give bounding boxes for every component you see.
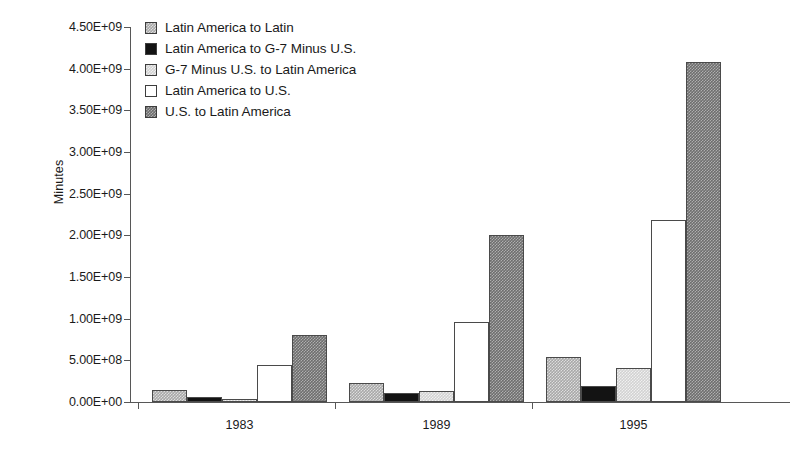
legend-swatch-icon [145, 43, 157, 55]
bar-1983-series-1 [187, 397, 222, 402]
y-axis-tick-label: 4.00E+09 [18, 62, 122, 76]
legend-label: G-7 Minus U.S. to Latin America [165, 62, 356, 77]
x-axis-tick-label: 1989 [423, 418, 451, 432]
y-axis-tick-label: 5.00E+08 [18, 353, 122, 367]
x-axis-line [124, 402, 790, 403]
y-axis-tick-label: 1.50E+09 [18, 270, 122, 284]
y-axis-tick-mark [124, 277, 130, 278]
legend-label: Latin America to Latin [165, 20, 294, 35]
y-axis-tick-mark [124, 152, 130, 153]
legend-label: Latin America to G-7 Minus U.S. [165, 41, 356, 56]
x-axis-tick-label: 1983 [226, 418, 254, 432]
y-axis-tick-mark [124, 110, 130, 111]
y-axis-tick-label: 4.50E+09 [18, 20, 122, 34]
y-axis-tick-mark [124, 27, 130, 28]
bar-1983-series-2 [222, 399, 257, 402]
chart-legend: Latin America to LatinLatin America to G… [145, 17, 356, 122]
bar-1983-series-4 [292, 335, 327, 402]
legend-item: Latin America to G-7 Minus U.S. [145, 38, 356, 59]
bar-1995-series-1 [581, 386, 616, 402]
bar-chart-figure: Minutes 0.00E+005.00E+081.00E+091.50E+09… [0, 0, 799, 462]
y-axis-tick-mark [124, 360, 130, 361]
bar-1989-series-1 [384, 393, 419, 402]
legend-item: Latin America to U.S. [145, 80, 356, 101]
legend-item: Latin America to Latin [145, 17, 356, 38]
bar-1995-series-2 [616, 368, 651, 402]
legend-item: U.S. to Latin America [145, 101, 356, 122]
y-axis-tick-labels: 0.00E+005.00E+081.00E+091.50E+092.00E+09… [18, 0, 122, 462]
x-axis-tick-mark [335, 402, 336, 409]
legend-item: G-7 Minus U.S. to Latin America [145, 59, 356, 80]
bar-1989-series-0 [349, 383, 384, 402]
bar-1989-series-2 [419, 391, 454, 402]
bar-1995-series-4 [686, 62, 721, 402]
bar-1983-series-0 [152, 390, 187, 402]
y-axis-tick-mark [124, 402, 130, 403]
bar-1989-series-4 [489, 235, 524, 403]
legend-label: Latin America to U.S. [165, 83, 291, 98]
bar-1995-series-3 [651, 220, 686, 402]
y-axis-tick-label: 2.00E+09 [18, 228, 122, 242]
y-axis-tick-label: 3.50E+09 [18, 103, 122, 117]
legend-swatch-icon [145, 64, 157, 76]
legend-swatch-icon [145, 85, 157, 97]
y-axis-tick-mark [124, 319, 130, 320]
x-axis-tick-mark [138, 402, 139, 409]
x-axis-tick-label: 1995 [620, 418, 648, 432]
bar-1989-series-3 [454, 322, 489, 402]
legend-swatch-icon [145, 22, 157, 34]
bar-1983-series-3 [257, 365, 292, 403]
y-axis-tick-mark [124, 69, 130, 70]
bar-1995-series-0 [546, 357, 581, 402]
legend-swatch-icon [145, 106, 157, 118]
x-axis-tick-mark [532, 402, 533, 409]
legend-label: U.S. to Latin America [165, 104, 291, 119]
y-axis-tick-mark [124, 235, 130, 236]
y-axis-tick-label: 1.00E+09 [18, 312, 122, 326]
y-axis-tick-label: 2.50E+09 [18, 187, 122, 201]
y-axis-tick-mark [124, 194, 130, 195]
y-axis-tick-label: 3.00E+09 [18, 145, 122, 159]
y-axis-tick-label: 0.00E+00 [18, 395, 122, 409]
